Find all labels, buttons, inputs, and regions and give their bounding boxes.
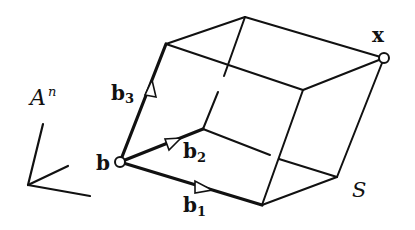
edge-top-side — [303, 58, 384, 90]
label-b2: b — [183, 139, 197, 163]
parallelepiped-diagram: A n b 3 b b 2 b 1 x S — [0, 0, 415, 230]
label-b1: b — [183, 193, 197, 217]
label-b3-sub: 3 — [125, 91, 134, 106]
label-solid: S — [352, 178, 366, 202]
edge-top-front — [166, 44, 303, 90]
edge-b3-back-lower — [203, 92, 218, 129]
label-space-superscript: n — [48, 84, 56, 99]
edge-bottom-side — [262, 177, 337, 205]
edge-top-right — [245, 17, 384, 58]
edge-b2-back — [203, 129, 270, 155]
label-corner: x — [372, 23, 385, 47]
edge-b3-front — [262, 90, 303, 205]
axes-icon — [28, 124, 90, 196]
parallelepiped-edges — [166, 17, 384, 205]
label-origin: b — [96, 151, 110, 175]
arrowhead-b2-icon — [165, 138, 181, 150]
edge-b2-back-2 — [279, 159, 337, 177]
arrowhead-b3-icon — [145, 80, 156, 97]
origin-point-icon — [115, 157, 125, 167]
edge-top-back — [166, 17, 245, 44]
arrowhead-b1-icon — [195, 181, 212, 193]
label-b2-sub: 2 — [197, 150, 206, 165]
label-space: A — [28, 85, 46, 110]
label-b1-sub: 1 — [197, 204, 206, 219]
corner-point-icon — [379, 53, 389, 63]
edge-b3-right — [337, 58, 384, 177]
label-b3: b — [111, 81, 125, 105]
